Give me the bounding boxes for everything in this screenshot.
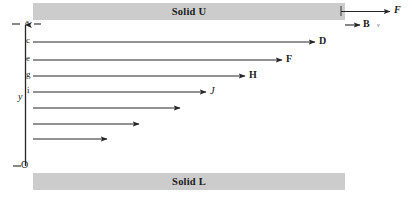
y-axis-label: y: [18, 92, 22, 102]
arrow-label-H: H: [249, 70, 257, 80]
arrow-label-J: J: [210, 86, 215, 97]
axis-tick-i: i: [27, 86, 30, 95]
axis-tick-c: c: [26, 36, 30, 45]
velocity-profile-arrows: [33, 42, 315, 139]
velocity-profile-figure: Solid U Solid L: [0, 0, 412, 199]
arrow-label-B: B: [363, 19, 370, 29]
y-axis: [12, 24, 41, 166]
arrow-label-v-small: v: [377, 22, 380, 28]
axis-origin-label: O: [21, 160, 28, 170]
axis-tick-a: a: [25, 18, 29, 27]
axis-tick-e: e: [26, 54, 30, 63]
figure-linework: [0, 0, 412, 199]
arrow-label-F: F: [286, 54, 292, 64]
arrow-F-top: [341, 6, 390, 16]
arrow-label-F-top: F: [394, 5, 401, 15]
axis-tick-g: g: [26, 70, 31, 79]
arrow-label-D: D: [319, 36, 326, 46]
